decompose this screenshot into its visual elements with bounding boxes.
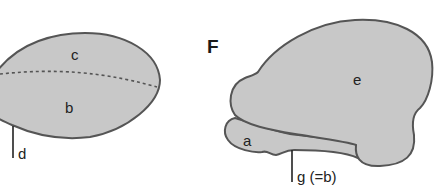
left-ellipsoid-shape <box>0 33 160 138</box>
left-panel-figure: c b d <box>0 33 160 162</box>
label-e: e <box>353 71 361 88</box>
label-b: b <box>65 99 73 116</box>
label-g: g (=b) <box>297 168 337 185</box>
label-a: a <box>243 132 252 149</box>
label-c: c <box>71 46 79 63</box>
diagram-canvas: c b d F e a g (=b) <box>0 0 437 191</box>
right-panel-figure: F e a g (=b) <box>207 20 432 185</box>
label-d: d <box>18 145 26 162</box>
panel-letter-f: F <box>207 36 219 57</box>
